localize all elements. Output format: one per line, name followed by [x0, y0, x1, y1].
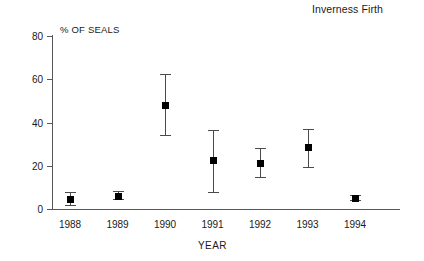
- y-tick-mark: [47, 209, 52, 210]
- x-tick-label-1993: 1993: [286, 219, 330, 230]
- y-tick-mark: [47, 166, 52, 167]
- y-tick-label: 40: [21, 118, 43, 129]
- y-axis-line: [52, 35, 53, 210]
- marker-square: [67, 196, 74, 203]
- x-tick-label-1988: 1988: [48, 219, 92, 230]
- marker-square: [257, 160, 264, 167]
- chart-figure: Inverness Firth % OF SEALS YEAR 02040608…: [0, 0, 424, 261]
- x-tick-label-1994: 1994: [333, 219, 377, 230]
- y-tick-mark: [47, 123, 52, 124]
- error-bar-cap-upper: [255, 148, 266, 149]
- x-tick-label-1990: 1990: [143, 219, 187, 230]
- marker-square: [305, 144, 312, 151]
- y-tick-mark: [47, 79, 52, 80]
- error-bar-cap-upper: [208, 130, 219, 131]
- marker-square: [352, 195, 359, 202]
- y-tick-mark: [47, 36, 52, 37]
- error-bar-cap-upper: [65, 192, 76, 193]
- error-bar-cap-upper: [113, 191, 124, 192]
- x-tick-label-1989: 1989: [96, 219, 140, 230]
- error-bar-cap-upper: [160, 74, 171, 75]
- error-bar-cap-upper: [303, 129, 314, 130]
- error-bar-cap-lower: [303, 167, 314, 168]
- x-tick-label-1992: 1992: [238, 219, 282, 230]
- error-bar-cap-lower: [208, 192, 219, 193]
- error-bar-cap-lower: [65, 205, 76, 206]
- plot-area: 020406080 1988198919901991199219931994: [0, 0, 424, 261]
- y-tick-label: 20: [21, 161, 43, 172]
- marker-square: [162, 102, 169, 109]
- x-axis-line: [52, 209, 400, 210]
- y-tick-label: 0: [21, 204, 43, 215]
- marker-square: [210, 157, 217, 164]
- marker-square: [115, 193, 122, 200]
- x-tick-label-1991: 1991: [191, 219, 235, 230]
- y-tick-label: 80: [21, 31, 43, 42]
- error-bar-cap-lower: [160, 135, 171, 136]
- y-tick-label: 60: [21, 74, 43, 85]
- error-bar-cap-lower: [255, 177, 266, 178]
